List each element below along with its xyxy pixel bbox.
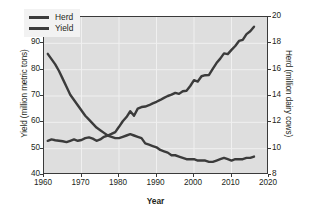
tick-mark <box>40 42 43 43</box>
x-tick-1970: 1970 <box>61 178 101 187</box>
x-tick-2020: 2020 <box>248 178 288 187</box>
y-tick-left-40: 40 <box>14 169 40 178</box>
tick-mark <box>118 174 119 177</box>
y-tick-left-80: 80 <box>14 64 40 73</box>
y-tick-left-60: 60 <box>14 116 40 125</box>
legend-swatch-yield <box>29 27 49 30</box>
y-tick-left-70: 70 <box>14 90 40 99</box>
y-tick-right-16: 16 <box>272 64 298 73</box>
tick-mark <box>268 174 269 177</box>
chart-figure: Yield (million metric tons) Herd (millio… <box>0 0 312 214</box>
y-tick-right-14: 14 <box>272 90 298 99</box>
data-series <box>48 27 254 162</box>
y-tick-right-10: 10 <box>272 143 298 152</box>
tick-mark <box>268 16 271 17</box>
x-tick-1980: 1980 <box>98 178 138 187</box>
x-axis-title: Year <box>43 196 268 206</box>
tick-mark <box>40 69 43 70</box>
tick-mark <box>268 42 271 43</box>
y-tick-right-18: 18 <box>272 37 298 46</box>
tick-mark <box>81 174 82 177</box>
plot-svg <box>44 17 268 174</box>
y-tick-right-8: 8 <box>272 169 298 178</box>
tick-mark <box>43 174 44 177</box>
gridlines <box>44 17 268 174</box>
series-line-yield <box>48 27 254 142</box>
chart-legend: Herd Yield <box>24 9 80 37</box>
legend-item-herd: Herd <box>29 12 73 23</box>
tick-mark <box>268 121 271 122</box>
tick-mark <box>156 174 157 177</box>
legend-label-yield: Yield <box>55 23 73 34</box>
y-tick-right-20: 20 <box>272 11 298 20</box>
tick-mark <box>40 121 43 122</box>
tick-mark <box>40 95 43 96</box>
x-tick-2010: 2010 <box>211 178 251 187</box>
legend-swatch-herd <box>29 16 49 19</box>
x-tick-1990: 1990 <box>136 178 176 187</box>
y-tick-right-12: 12 <box>272 116 298 125</box>
tick-mark <box>40 148 43 149</box>
tick-mark <box>268 95 271 96</box>
tick-mark <box>268 69 271 70</box>
x-tick-2000: 2000 <box>173 178 213 187</box>
y-tick-left-50: 50 <box>14 143 40 152</box>
x-tick-1960: 1960 <box>23 178 63 187</box>
plot-area <box>43 16 268 174</box>
tick-mark <box>231 174 232 177</box>
tick-mark <box>268 148 271 149</box>
legend-item-yield: Yield <box>29 23 73 34</box>
legend-label-herd: Herd <box>55 12 73 23</box>
tick-mark <box>193 174 194 177</box>
y-tick-left-90: 90 <box>14 37 40 46</box>
